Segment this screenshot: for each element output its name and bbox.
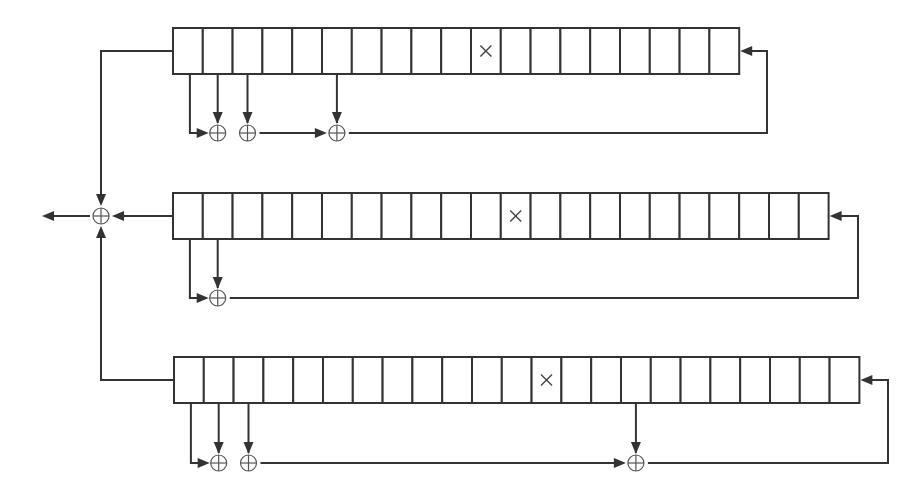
arrowhead-icon	[860, 375, 872, 385]
register-cell	[590, 28, 620, 74]
register-cell	[411, 28, 441, 74]
register-cell	[739, 193, 769, 239]
register-cell	[382, 28, 412, 74]
register-2	[173, 193, 858, 306]
register-cell	[650, 193, 680, 239]
register-cell	[651, 357, 681, 403]
arrowhead-icon	[197, 128, 209, 138]
xor-gate	[211, 455, 227, 471]
register-cell	[709, 28, 739, 74]
register-cell	[590, 193, 620, 239]
register-cell	[681, 357, 711, 403]
register-cell	[710, 357, 740, 403]
register-cell	[322, 28, 352, 74]
register-cell	[471, 193, 501, 239]
register-cell	[472, 357, 502, 403]
register-cell	[769, 193, 799, 239]
arrowhead-icon	[198, 458, 210, 468]
register-cell	[770, 357, 800, 403]
output-arrow-icon	[42, 211, 54, 221]
arrowhead-icon	[96, 194, 106, 206]
register-cell	[800, 357, 830, 403]
output-combiner	[42, 51, 174, 380]
arrowhead-icon	[112, 211, 124, 221]
register-cell	[262, 28, 292, 74]
xor-gate	[240, 125, 256, 141]
arrowhead-icon	[214, 442, 224, 454]
arrowhead-icon	[244, 442, 254, 454]
arrowhead-icon	[213, 277, 223, 289]
register-cell	[442, 357, 472, 403]
register-cell	[441, 28, 471, 74]
register-cell	[233, 193, 263, 239]
feedback-bracket	[190, 74, 198, 133]
arrowhead-icon	[96, 226, 106, 238]
register-cell	[502, 357, 532, 403]
register-cell	[830, 357, 860, 403]
register-cell	[263, 357, 293, 403]
register-cell	[680, 28, 710, 74]
register-cell	[411, 193, 441, 239]
feedback-bracket	[190, 239, 198, 298]
xor-gate	[210, 290, 226, 306]
xor-gate	[628, 455, 644, 471]
xor-gate	[329, 125, 345, 141]
arrowhead-icon	[740, 46, 752, 56]
register-cell	[501, 28, 531, 74]
register-cell	[561, 357, 591, 403]
register-cell	[620, 28, 650, 74]
register-3-output-wire	[101, 228, 174, 380]
register-cell	[560, 193, 590, 239]
arrowhead-icon	[315, 128, 327, 138]
register-cell	[322, 193, 352, 239]
register-cell	[352, 193, 382, 239]
register-cell	[203, 28, 233, 74]
register-cells	[174, 357, 859, 403]
register-cell	[382, 193, 412, 239]
register-cell	[412, 357, 442, 403]
register-cells	[173, 193, 829, 239]
register-cell	[620, 193, 650, 239]
register-cell	[293, 357, 323, 403]
arrowhead-icon	[332, 112, 342, 124]
register-cell	[680, 193, 710, 239]
registers-layer	[173, 28, 888, 471]
register-cell	[262, 193, 292, 239]
register-cell	[174, 357, 204, 403]
register-cell	[352, 28, 382, 74]
register-1	[173, 28, 767, 141]
register-cell	[740, 357, 770, 403]
register-cell	[383, 357, 413, 403]
register-cell	[591, 357, 621, 403]
register-cell	[799, 193, 829, 239]
register-1-output-wire	[101, 51, 173, 204]
register-cell	[234, 357, 264, 403]
register-cell	[323, 357, 353, 403]
register-cell	[531, 28, 561, 74]
register-cell	[292, 193, 322, 239]
arrowhead-icon	[243, 112, 253, 124]
register-cell	[233, 28, 263, 74]
arrowhead-icon	[213, 112, 223, 124]
register-cell	[203, 193, 233, 239]
arrowhead-icon	[197, 293, 209, 303]
arrowhead-icon	[614, 458, 626, 468]
register-3	[174, 357, 888, 471]
register-cell	[441, 193, 471, 239]
register-cells	[173, 28, 739, 74]
register-cell	[353, 357, 383, 403]
feedback-bracket	[191, 403, 199, 463]
arrowhead-icon	[631, 442, 641, 454]
xor-gate	[241, 455, 257, 471]
register-cell	[650, 28, 680, 74]
register-cell	[709, 193, 739, 239]
register-cell	[173, 193, 203, 239]
output-xor-gate	[93, 208, 109, 224]
arrowhead-icon	[830, 211, 842, 221]
register-cell	[292, 28, 322, 74]
register-cell	[621, 357, 651, 403]
register-cell	[173, 28, 203, 74]
register-cell	[531, 193, 561, 239]
lfsr-diagram	[0, 0, 924, 492]
xor-gate	[210, 125, 226, 141]
